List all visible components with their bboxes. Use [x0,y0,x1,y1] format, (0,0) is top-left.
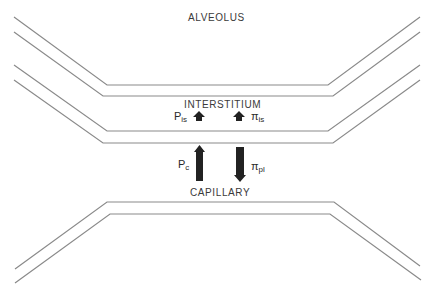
alveolar-wall-line-1 [14,17,420,85]
interstitium-boundary-line-1 [14,65,420,131]
p-c-label: Pc [178,158,189,172]
alveolar-wall-line-2 [14,32,420,96]
membrane-diagram [0,0,433,291]
pi-is-arrow-icon [233,111,245,121]
p-is-label: Pis [174,110,187,124]
pi-pl-label: πpl [251,160,265,174]
p-is-arrow-icon [193,111,205,121]
interstitium-label: INTERSTITIUM [184,99,261,110]
p-c-arrow-icon [194,145,205,181]
pi-pl-arrow-icon [234,147,246,182]
interstitium-boundary-line-2 [14,80,420,143]
pi-is-label: πis [251,110,264,124]
capillary-label: CAPILLARY [190,187,250,198]
alveolus-label: ALVEOLUS [188,12,245,23]
